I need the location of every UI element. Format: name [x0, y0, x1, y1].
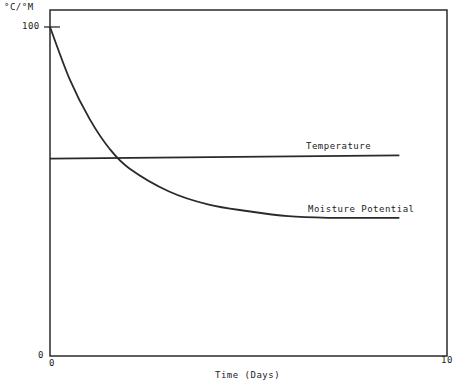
x-tick-label-0: 0	[49, 358, 55, 368]
moisture-potential-label: Moisture Potential	[308, 204, 415, 214]
temperature-line	[50, 155, 399, 158]
x-tick-label-10: 10	[441, 355, 453, 365]
chart-canvas	[0, 0, 468, 390]
temperature-label: Temperature	[306, 141, 371, 151]
y-tick-label-0: 0	[38, 350, 44, 360]
y-tick-label-100: 100	[22, 21, 40, 31]
plot-frame	[50, 10, 447, 356]
moisture-potential-curve	[50, 27, 399, 218]
y-axis-unit: °C/°M	[4, 2, 34, 12]
x-axis-title: Time (Days)	[215, 370, 280, 380]
